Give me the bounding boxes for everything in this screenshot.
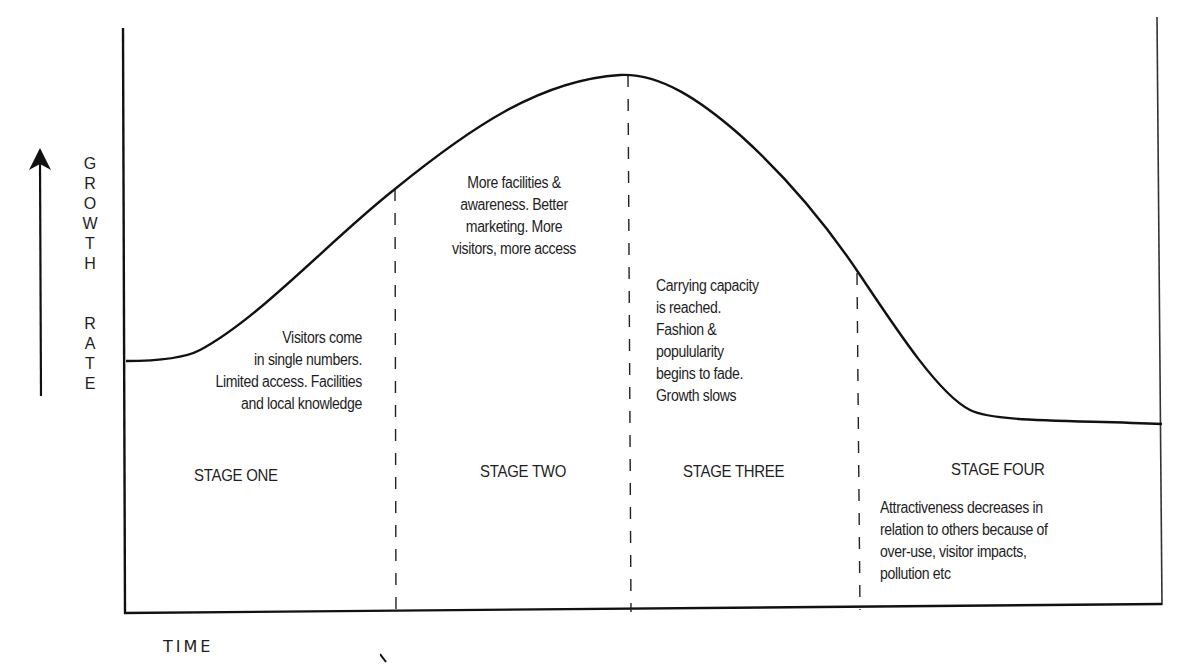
stage-two-description: More facilities & awareness. Better mark…	[426, 172, 602, 260]
stage-one-description: Visitors come in single numbers. Limited…	[116, 327, 362, 415]
stage-four-description: Attractiveness decreases in relation to …	[880, 497, 1126, 585]
stage-four-title: STAGE FOUR	[951, 460, 1045, 480]
y-label-letter: W	[82, 215, 98, 233]
y-label-letter: R	[82, 175, 98, 193]
y-label-letter: T	[82, 235, 98, 253]
stage-three-title: STAGE THREE	[683, 462, 784, 482]
right-border	[1157, 17, 1162, 605]
bottom-axis	[124, 604, 1162, 613]
y-label-letter: G	[82, 155, 98, 173]
left-axis	[123, 28, 125, 614]
divider-stage-3-4	[857, 273, 860, 610]
divider-stage-1-2	[395, 189, 396, 617]
y-label-letter: A	[82, 335, 98, 353]
y-label-letter: T	[82, 355, 98, 373]
stage-one-title: STAGE ONE	[194, 466, 278, 486]
divider-stage-2-3	[628, 75, 631, 612]
stage-two-title: STAGE TWO	[480, 462, 566, 482]
x-axis-label: TIME	[163, 637, 213, 656]
y-label-letter: H	[82, 255, 98, 273]
y-axis-arrow-shaft	[40, 160, 41, 396]
y-label-letter: R	[82, 315, 98, 333]
stage-three-description: Carrying capacity is reached. Fashion & …	[656, 275, 832, 407]
x-axis-arrow-icon	[380, 652, 400, 664]
y-label-letter: E	[82, 375, 98, 393]
y-label-letter: O	[82, 195, 98, 213]
